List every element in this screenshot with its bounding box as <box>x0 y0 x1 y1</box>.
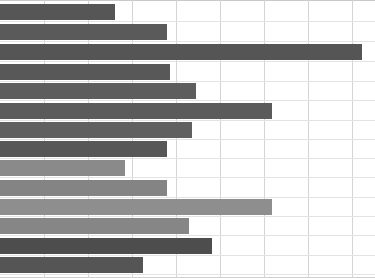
bar-row <box>0 141 375 157</box>
row-separator <box>0 177 375 178</box>
plot-top-border <box>0 0 375 1</box>
row-separator <box>0 100 375 101</box>
bar-12[interactable] <box>0 218 189 234</box>
bar-4[interactable] <box>0 64 170 80</box>
bar-row <box>0 238 375 254</box>
row-separator <box>0 216 375 217</box>
row-separator <box>0 197 375 198</box>
row-separator <box>0 81 375 82</box>
row-separator <box>0 139 375 140</box>
row-separator <box>0 274 375 275</box>
bar-1[interactable] <box>0 4 115 20</box>
bar-row <box>0 64 375 80</box>
bar-7[interactable] <box>0 122 192 138</box>
bar-row <box>0 83 375 99</box>
bar-row <box>0 4 375 20</box>
bar-9[interactable] <box>0 160 125 176</box>
bar-row <box>0 44 375 60</box>
bar-row <box>0 103 375 119</box>
bar-11[interactable] <box>0 199 272 215</box>
bar-row <box>0 160 375 176</box>
bar-13[interactable] <box>0 238 212 254</box>
row-separator <box>0 61 375 62</box>
bar-6[interactable] <box>0 103 272 119</box>
bar-row <box>0 218 375 234</box>
bar-14[interactable] <box>0 257 143 273</box>
bar-8[interactable] <box>0 141 167 157</box>
plot-area <box>0 0 375 278</box>
row-separator <box>0 235 375 236</box>
bar-10[interactable] <box>0 180 167 196</box>
row-separator <box>0 120 375 121</box>
bar-row <box>0 180 375 196</box>
row-separator <box>0 255 375 256</box>
bar-row <box>0 257 375 273</box>
bar-row <box>0 24 375 40</box>
bar-2[interactable] <box>0 24 167 40</box>
bar-chart <box>0 0 375 278</box>
row-separator <box>0 158 375 159</box>
row-separator <box>0 21 375 22</box>
row-separator <box>0 41 375 42</box>
bar-3[interactable] <box>0 44 362 60</box>
bar-row <box>0 122 375 138</box>
bar-row <box>0 199 375 215</box>
bar-5[interactable] <box>0 83 196 99</box>
